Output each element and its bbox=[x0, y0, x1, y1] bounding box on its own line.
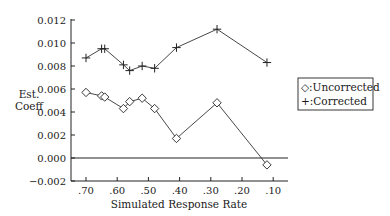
data-point-corrected bbox=[263, 58, 271, 66]
series-line-uncorrected bbox=[86, 92, 267, 164]
series-uncorrected bbox=[82, 88, 271, 169]
series-corrected bbox=[82, 25, 271, 75]
x-tick-label: .50 bbox=[140, 185, 156, 196]
y-tick-label: 0.000 bbox=[37, 153, 66, 164]
legend: ◇:Uncorrected +:Corrected bbox=[298, 78, 380, 110]
chart: −0.0020.0000.0020.0040.0060.0080.0100.01… bbox=[0, 0, 390, 216]
y-axis-title-line1: Est. bbox=[19, 88, 40, 100]
x-tick-label: .30 bbox=[203, 185, 219, 196]
x-tick-label: .70 bbox=[78, 185, 94, 196]
x-tick-label: .20 bbox=[234, 185, 250, 196]
y-tick-label: 0.006 bbox=[37, 84, 66, 95]
x-axis-title: Simulated Response Rate bbox=[111, 198, 247, 210]
x-tick-label: .60 bbox=[109, 185, 125, 196]
legend-label-corrected: +:Corrected bbox=[301, 95, 367, 107]
y-axis-title-line2: Coeff bbox=[15, 100, 45, 112]
x-tick-label: .40 bbox=[172, 185, 188, 196]
y-tick-label: 0.008 bbox=[37, 61, 66, 72]
data-point-uncorrected bbox=[82, 88, 90, 96]
data-point-corrected bbox=[82, 54, 90, 62]
series-layer bbox=[82, 25, 271, 169]
data-point-corrected bbox=[138, 62, 146, 70]
y-tick-label: −0.002 bbox=[29, 176, 66, 187]
data-point-corrected bbox=[213, 25, 221, 33]
y-tick-label: 0.010 bbox=[37, 38, 66, 49]
axes: −0.0020.0000.0020.0040.0060.0080.0100.01… bbox=[29, 15, 288, 197]
y-tick-label: 0.012 bbox=[37, 15, 66, 26]
x-tick-label: .10 bbox=[265, 185, 281, 196]
y-tick-label: 0.002 bbox=[37, 130, 66, 141]
legend-label-uncorrected: ◇:Uncorrected bbox=[301, 81, 380, 93]
